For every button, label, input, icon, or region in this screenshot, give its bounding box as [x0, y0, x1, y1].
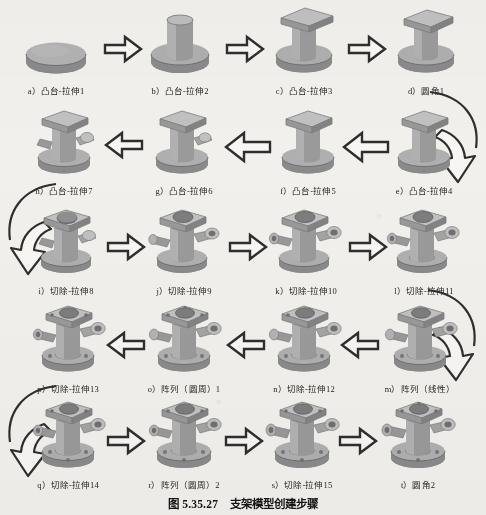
figure-caption-title: 支架模型创建步骤 — [230, 498, 318, 510]
step-art-o — [128, 300, 240, 374]
part-render-circular-pattern-2 — [140, 392, 228, 470]
step-art-k — [250, 202, 362, 276]
step-caption-f: f）凸台-拉伸5 — [252, 184, 364, 196]
figure-row-5: q）切除-拉伸14 — [0, 396, 486, 492]
part-render-cut-13 — [24, 296, 112, 374]
step-cell-b: b）凸台-拉伸2 — [124, 2, 236, 98]
step-caption-t: t）圆角2 — [362, 478, 474, 490]
figure-caption-number: 图 5.35.27 — [168, 498, 218, 510]
part-render-column-square-top-2 — [268, 102, 348, 176]
step-cell-t: t）圆角2 — [362, 396, 474, 492]
part-render-cut-14 — [24, 392, 112, 470]
step-caption-k: k）切除-拉伸10 — [250, 284, 362, 296]
step-caption-r: r）阵列（圆周）2 — [128, 478, 240, 490]
figure-row-2: h）凸台-拉伸7 — [0, 102, 486, 198]
step-art-d — [370, 2, 482, 76]
step-art-t — [362, 396, 474, 470]
figure-row-1: a）凸台-拉伸1 — [0, 2, 486, 98]
step-caption-c: c）凸台-拉伸3 — [248, 84, 360, 96]
step-caption-a: a）凸台-拉伸1 — [0, 84, 112, 96]
part-render-column-with-side-boss — [142, 102, 226, 176]
step-art-e — [368, 102, 480, 176]
part-render-column-two-side-bosses — [22, 102, 106, 176]
part-render-cut-15 — [258, 392, 346, 470]
part-render-disc-with-cylinder — [143, 4, 217, 76]
step-art-b — [124, 2, 236, 76]
step-cell-j: j）切除-拉伸9 — [128, 202, 240, 298]
step-art-j — [128, 202, 240, 276]
step-caption-s: s）切除-拉伸15 — [246, 478, 358, 490]
step-art-l — [368, 202, 480, 276]
step-cell-a: a）凸台-拉伸1 — [0, 2, 112, 98]
step-art-a — [0, 2, 112, 76]
step-cell-d: d）圆角1 — [370, 2, 482, 98]
step-caption-j: j）切除-拉伸9 — [128, 284, 240, 296]
step-art-c — [248, 2, 360, 76]
step-cell-k: k）切除-拉伸10 — [250, 202, 362, 298]
figure-row-3: i）切除-拉伸8 — [0, 202, 486, 298]
step-caption-e: e）凸台-拉伸4 — [368, 184, 480, 196]
figure-bracket-modeling-steps: a）凸台-拉伸1 — [0, 0, 486, 515]
figure-caption: 图 5.35.27支架模型创建步骤 — [0, 495, 486, 511]
step-cell-c: c）凸台-拉伸3 — [248, 2, 360, 98]
step-cell-o: o）阵列（圆周）1 — [128, 300, 240, 396]
part-render-circular-pattern-1 — [140, 296, 228, 374]
part-render-cut-side-bore — [140, 200, 228, 276]
step-cell-e: e）凸台-拉伸4 — [368, 102, 480, 198]
part-render-cut-second-side-bore — [262, 200, 350, 276]
part-render-cut-12 — [260, 296, 348, 374]
part-render-column-square-top — [384, 102, 464, 176]
part-render-final-bracket — [372, 392, 464, 470]
part-render-linear-pattern — [376, 296, 464, 374]
step-caption-i: i）切除-拉伸8 — [10, 284, 122, 296]
part-render-disc — [19, 32, 93, 76]
part-render-disc-cylinder-square-top — [264, 2, 344, 76]
step-art-m — [364, 300, 476, 374]
step-cell-m: m）阵列（线性） — [364, 300, 476, 396]
part-render-cut-top-bore — [24, 200, 108, 276]
step-caption-g: g）凸台-拉伸6 — [128, 184, 240, 196]
step-caption-q: q）切除-拉伸14 — [12, 478, 124, 490]
part-render-cut-flange-bore — [380, 200, 468, 276]
step-caption-b: b）凸台-拉伸2 — [124, 84, 236, 96]
part-render-filleted-column — [386, 2, 466, 76]
figure-row-4: p）切除-拉伸13 — [0, 300, 486, 396]
